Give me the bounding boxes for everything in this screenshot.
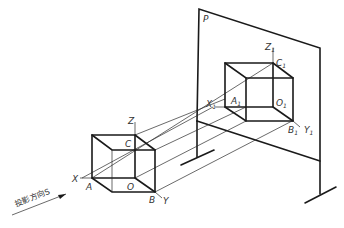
label-c1: C1: [276, 58, 286, 69]
label-x: X: [71, 174, 79, 184]
projection-rays: [82, 63, 292, 192]
projected-cube: Z1 C1 A1 O1 X1 B1 Y1: [205, 42, 313, 136]
label-a1: A1: [230, 96, 241, 107]
label-z1: Z1: [264, 42, 275, 53]
plane-top-left-edges: [197, 9, 320, 194]
projection-diagram: P X Z C A O B Y Z1 C1: [0, 0, 344, 228]
label-a: A: [85, 182, 92, 192]
label-c: C: [125, 139, 132, 149]
object-cube: X Z C A O B Y: [71, 116, 170, 206]
axis-y: [155, 192, 162, 198]
label-z: Z: [127, 116, 135, 126]
projection-direction: 投影方向S: [12, 186, 66, 215]
direction-arrowhead: [58, 194, 66, 199]
label-b1: B1: [288, 125, 298, 136]
cube-edge-o: [135, 178, 155, 192]
label-b: B: [149, 195, 155, 205]
proj-edge-o: [273, 107, 293, 121]
projection-plane: P: [181, 9, 336, 203]
label-o: O: [127, 182, 134, 192]
label-y: Y: [163, 196, 170, 206]
label-o1: O1: [276, 98, 287, 109]
plane-bottom-edge: [197, 121, 320, 161]
ray-b: [155, 121, 292, 192]
label-y1: Y1: [304, 125, 313, 136]
direction-label: 投影方向S: [13, 186, 51, 209]
plane-label: P: [203, 14, 209, 24]
